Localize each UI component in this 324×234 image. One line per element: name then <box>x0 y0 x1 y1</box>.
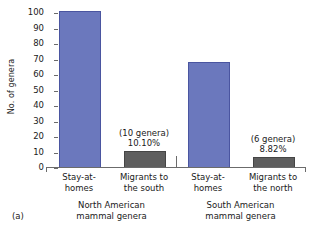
x-tick-label-line1-0: Stay-at- <box>44 172 114 183</box>
x-tick-label-0: Stay-at-homes <box>44 172 114 194</box>
axis-end-tick-0 <box>46 167 47 172</box>
x-tick-label-line1-1: Migrants to <box>109 172 179 183</box>
x-tick-label-1: Migrants tothe south <box>109 172 179 194</box>
x-tick-label-line1-2: Stay-at- <box>173 172 243 183</box>
y-tick-label-90: 90 <box>16 24 44 33</box>
y-axis-tick-labels: 0102030405060708090100 <box>12 0 44 234</box>
y-tick-label-100: 100 <box>16 8 44 17</box>
y-tick-label-50: 50 <box>16 86 44 95</box>
x-tick-label-3: Migrants tothe north <box>238 172 308 194</box>
y-tick-label-20: 20 <box>16 132 44 141</box>
bar-annotation-3: (6 genera)8.82% <box>228 134 318 155</box>
axis-end-tick-1 <box>305 167 306 172</box>
annotation-percent-1: 10.10% <box>99 138 189 149</box>
y-tick-label-40: 40 <box>16 101 44 110</box>
x-tick-label-line2-0: homes <box>44 183 114 194</box>
y-tick-label-10: 10 <box>16 148 44 157</box>
panel-label: (a) <box>12 211 24 221</box>
annotation-percent-3: 8.82% <box>228 144 318 155</box>
annotation-genera-1: (10 genera) <box>99 128 189 139</box>
y-tick-label-80: 80 <box>16 39 44 48</box>
annotation-genera-3: (6 genera) <box>228 134 318 145</box>
x-tick-label-line2-3: the north <box>238 183 308 194</box>
group-label-line2-1: mammal genera <box>181 211 301 222</box>
bar-chart-figure: No. of genera 0102030405060708090100 (a)… <box>0 0 324 234</box>
group-label-0: North Americanmammal genera <box>52 200 172 222</box>
bar-1 <box>124 151 166 169</box>
y-tick-label-60: 60 <box>16 70 44 79</box>
x-tick-label-line1-3: Migrants to <box>238 172 308 183</box>
bar-annotation-1: (10 genera)10.10% <box>99 128 189 149</box>
bar-0 <box>59 11 101 168</box>
x-tick-label-line2-1: the south <box>109 183 179 194</box>
group-label-line1-1: South American <box>181 200 301 211</box>
y-tick-label-70: 70 <box>16 55 44 64</box>
group-label-line2-0: mammal genera <box>52 211 172 222</box>
x-tick-label-2: Stay-at-homes <box>173 172 243 194</box>
x-tick-label-line2-2: homes <box>173 183 243 194</box>
bar-2 <box>188 62 230 168</box>
group-label-1: South Americanmammal genera <box>181 200 301 222</box>
y-tick-label-30: 30 <box>16 117 44 126</box>
axis-group-separator-tick <box>176 156 177 168</box>
y-tick-label-0: 0 <box>16 163 44 172</box>
group-label-line1-0: North American <box>52 200 172 211</box>
